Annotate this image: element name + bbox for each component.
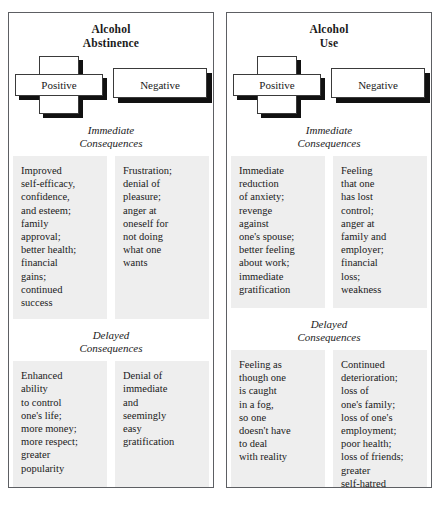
panel-alcohol-use: Alcohol Use Positive Negative Immediate …: [226, 12, 432, 488]
cell-immediate-negative: Frustration; denial of pleasure; anger a…: [115, 156, 209, 319]
valence-marker-row: Positive Negative: [227, 54, 431, 122]
cell-immediate-positive: Improved self-efficacy, confidence, and …: [13, 156, 107, 319]
delayed-consequences-row: Feeling as though one is caught in a fog…: [227, 350, 431, 488]
cell-immediate-negative: Feeling that one has lost control; anger…: [333, 156, 427, 308]
negative-bar-shape: Negative: [113, 68, 207, 102]
immediate-consequences-row: Immediate reduction of anxiety; revenge …: [227, 156, 431, 308]
negative-label: Negative: [113, 79, 207, 91]
heading-delayed-consequences: Delayed Consequences: [227, 318, 431, 344]
positive-plus-shape: Positive: [233, 56, 321, 114]
heading-immediate-consequences: Immediate Consequences: [9, 124, 213, 150]
panel-title: Alcohol Abstinence: [9, 13, 213, 50]
cell-delayed-negative: Denial of immediate and seemingly easy g…: [115, 361, 209, 488]
delayed-consequences-row: Enhanced ability to control one's life; …: [9, 361, 213, 488]
negative-bar-shape: Negative: [331, 68, 425, 102]
valence-marker-row: Positive Negative: [9, 54, 213, 122]
immediate-consequences-row: Improved self-efficacy, confidence, and …: [9, 156, 213, 319]
heading-immediate-consequences: Immediate Consequences: [227, 124, 431, 150]
negative-label: Negative: [331, 79, 425, 91]
cell-delayed-negative: Continued deterioration; loss of one's f…: [333, 350, 427, 488]
panel-alcohol-abstinence: Alcohol Abstinence Positive Negative Imm…: [8, 12, 214, 488]
decisional-balance-matrix: Alcohol Abstinence Positive Negative Imm…: [0, 0, 442, 509]
cell-delayed-positive: Enhanced ability to control one's life; …: [13, 361, 107, 488]
cell-immediate-positive: Immediate reduction of anxiety; revenge …: [231, 156, 325, 308]
positive-label: Positive: [15, 79, 103, 91]
cell-delayed-positive: Feeling as though one is caught in a fog…: [231, 350, 325, 488]
panel-title: Alcohol Use: [227, 13, 431, 50]
positive-plus-shape: Positive: [15, 56, 103, 114]
heading-delayed-consequences: Delayed Consequences: [9, 329, 213, 355]
positive-label: Positive: [233, 79, 321, 91]
